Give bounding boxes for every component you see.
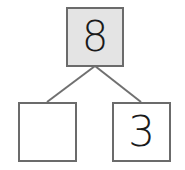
whole-box: 8	[66, 7, 124, 67]
connector-line-right	[95, 66, 141, 102]
part-box-left-empty[interactable]	[18, 102, 77, 162]
part-value-right: 3	[128, 111, 155, 153]
connector-line-left	[47, 66, 95, 102]
whole-value: 8	[82, 16, 109, 58]
part-box-right: 3	[112, 102, 171, 162]
